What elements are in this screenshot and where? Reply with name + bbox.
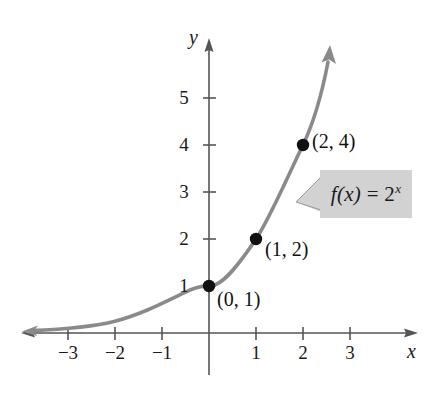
x-tick-label--2: −2: [101, 342, 129, 364]
x-axis: [21, 329, 418, 338]
y-axis-label: y: [189, 26, 198, 49]
y-axis-top-arrowhead: [205, 38, 214, 52]
formula-exponent: x: [395, 181, 401, 196]
exponential-function-figure: f(x) = 2x −3 −2 −1 1 2 3 1 2 3 4 5 x y (…: [0, 0, 436, 398]
x-axis-label: x: [407, 340, 416, 363]
y-tick-label-5: 5: [174, 87, 194, 109]
x-tick-label--3: −3: [54, 342, 82, 364]
formula-base: 2: [384, 182, 395, 206]
x-tick-label--1: −1: [148, 342, 176, 364]
y-tick-label-4: 4: [174, 134, 194, 156]
y-tick-label-3: 3: [174, 181, 194, 203]
callout-pointer: [296, 176, 321, 212]
formula-arg: (x): [337, 182, 361, 206]
x-tick-label-3: 3: [339, 342, 361, 364]
y-tick-label-1: 1: [174, 275, 194, 297]
function-callout-box: f(x) = 2x: [320, 170, 412, 218]
data-point-2-4[interactable]: [297, 139, 309, 151]
point-label-0-1: (0, 1): [217, 288, 260, 311]
point-label-2-4: (2, 4): [312, 130, 355, 153]
y-tick-label-2: 2: [174, 228, 194, 250]
x-tick-label-2: 2: [292, 342, 314, 364]
data-point-1-2[interactable]: [250, 233, 262, 245]
formula-equals: =: [361, 182, 384, 206]
x-axis-right-arrowhead: [404, 329, 418, 338]
y-axis: [205, 38, 214, 375]
data-point-0-1[interactable]: [203, 280, 215, 292]
function-formula-label: f(x) = 2x: [331, 181, 402, 207]
x-tick-label-1: 1: [245, 342, 267, 364]
point-label-1-2: (1, 2): [265, 238, 308, 261]
